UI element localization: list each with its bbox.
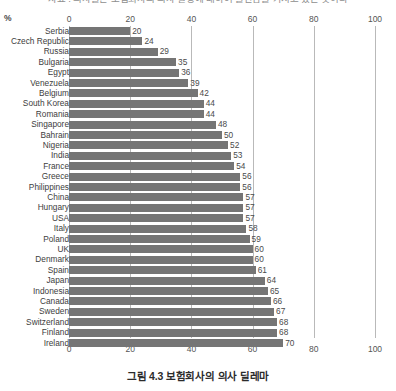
bar-value-label: 60 bbox=[253, 255, 264, 264]
bar-value-label: 20 bbox=[130, 27, 141, 36]
bar-category-label: Philippines bbox=[29, 182, 69, 192]
bar-value-label: 67 bbox=[274, 307, 285, 316]
bar-chart-plot-area: 002020404060608080100100Serbia20Czech Re… bbox=[0, 0, 396, 391]
bar bbox=[69, 329, 277, 337]
bar-value-label: 58 bbox=[246, 224, 257, 233]
x-axis-tick-top: 40 bbox=[187, 14, 196, 24]
bar-value-label: 24 bbox=[142, 37, 153, 46]
bar-category-label: Hungary bbox=[38, 202, 69, 212]
bar-category-label: Egypt bbox=[48, 67, 69, 77]
bar-row: Bahrain50 bbox=[0, 130, 396, 140]
bar bbox=[69, 204, 243, 212]
bar-row: UK60 bbox=[0, 244, 396, 254]
bar-category-label: India bbox=[51, 150, 69, 160]
bar-category-label: Italy bbox=[54, 223, 69, 233]
bar-value-label: 39 bbox=[188, 79, 199, 88]
bar bbox=[69, 110, 204, 118]
bar-value-label: 68 bbox=[277, 318, 288, 327]
bar-value-label: 44 bbox=[204, 99, 215, 108]
bar-value-label: 53 bbox=[231, 151, 242, 160]
bar bbox=[69, 214, 243, 222]
bar bbox=[69, 37, 142, 45]
bar-row: Hungary57 bbox=[0, 203, 396, 213]
bar bbox=[69, 277, 265, 285]
bar-value-label: 60 bbox=[253, 245, 264, 254]
bar-category-label: Bulgaria bbox=[39, 57, 69, 67]
bar-category-label: France bbox=[43, 161, 69, 171]
bar-category-label: South Korea bbox=[23, 98, 69, 108]
bar-row: Spain61 bbox=[0, 265, 396, 275]
bar-value-label: 68 bbox=[277, 328, 288, 337]
bar-row: Romania44 bbox=[0, 109, 396, 119]
bar-category-label: Venezuela bbox=[30, 78, 69, 88]
bar bbox=[69, 69, 179, 77]
bar-category-label: Serbia bbox=[45, 26, 69, 36]
bar-value-label: 59 bbox=[250, 235, 261, 244]
bar-row: Italy58 bbox=[0, 224, 396, 234]
bar-row: Singapore48 bbox=[0, 120, 396, 130]
bar-value-label: 42 bbox=[198, 89, 209, 98]
bar-row: Sweden67 bbox=[0, 307, 396, 317]
bar-category-label: Indonesia bbox=[33, 286, 69, 296]
bar bbox=[69, 79, 188, 87]
bar-value-label: 56 bbox=[240, 183, 251, 192]
x-axis-tick-top: 100 bbox=[368, 14, 382, 24]
bar-category-label: Czech Republic bbox=[11, 36, 69, 46]
bar bbox=[69, 318, 277, 326]
bar bbox=[69, 58, 176, 66]
bar-category-label: UK bbox=[57, 244, 69, 254]
bar-row: Philippines56 bbox=[0, 182, 396, 192]
bar-category-label: Belgium bbox=[39, 88, 69, 98]
bar bbox=[69, 173, 240, 181]
bar-value-label: 61 bbox=[256, 266, 267, 275]
bar-row: Bulgaria35 bbox=[0, 57, 396, 67]
bar-row: Denmark60 bbox=[0, 255, 396, 265]
bar-row: Switzerland68 bbox=[0, 317, 396, 327]
bar-value-label: 35 bbox=[176, 58, 187, 67]
bar-value-label: 44 bbox=[204, 110, 215, 119]
bar-row: South Korea44 bbox=[0, 99, 396, 109]
bar bbox=[69, 256, 253, 264]
bar-category-label: Bahrain bbox=[40, 130, 69, 140]
bar bbox=[69, 121, 216, 129]
bar-value-label: 57 bbox=[243, 193, 254, 202]
x-axis-tick-top: 20 bbox=[125, 14, 134, 24]
x-axis-tick-top: 0 bbox=[67, 14, 72, 24]
bar-value-label: 57 bbox=[243, 203, 254, 212]
bar-row: Finland68 bbox=[0, 328, 396, 338]
bar-value-label: 65 bbox=[268, 287, 279, 296]
bar-row: Indonesia65 bbox=[0, 286, 396, 296]
bar-row: India53 bbox=[0, 151, 396, 161]
bar-value-label: 29 bbox=[158, 47, 169, 56]
bar bbox=[69, 287, 268, 295]
bar-value-label: 66 bbox=[271, 297, 282, 306]
x-axis-tick-top: 80 bbox=[309, 14, 318, 24]
bar bbox=[69, 193, 243, 201]
bar bbox=[69, 339, 283, 347]
bar-value-label: 57 bbox=[243, 214, 254, 223]
bar-category-label: USA bbox=[52, 213, 69, 223]
x-axis-tick-top: 60 bbox=[248, 14, 257, 24]
bar bbox=[69, 100, 204, 108]
bar-row: Serbia20 bbox=[0, 26, 396, 36]
bar bbox=[69, 297, 271, 305]
bar-category-label: Japan bbox=[46, 275, 69, 285]
bar-value-label: 70 bbox=[283, 339, 294, 348]
bar-value-label: 50 bbox=[222, 131, 233, 140]
bar bbox=[69, 235, 250, 243]
bar-value-label: 36 bbox=[179, 68, 190, 77]
bar-category-label: Singapore bbox=[31, 119, 69, 129]
bar-category-label: Greece bbox=[42, 171, 69, 181]
bar bbox=[69, 225, 246, 233]
bar-category-label: Nigeria bbox=[43, 140, 69, 150]
bar-value-label: 52 bbox=[228, 141, 239, 150]
bar-category-label: China bbox=[47, 192, 69, 202]
bar-category-label: Poland bbox=[43, 234, 69, 244]
bar-row: France54 bbox=[0, 161, 396, 171]
bar-category-label: Canada bbox=[40, 296, 69, 306]
bar-category-label: Romania bbox=[36, 109, 69, 119]
bar-row: Russia29 bbox=[0, 47, 396, 57]
bar-row: Belgium42 bbox=[0, 88, 396, 98]
bar-row: USA57 bbox=[0, 213, 396, 223]
bar-category-label: Switzerland bbox=[26, 317, 69, 327]
